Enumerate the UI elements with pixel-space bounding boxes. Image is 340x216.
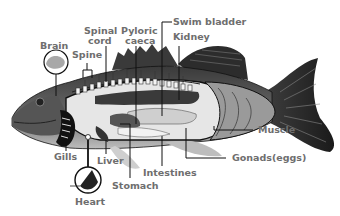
label-heart: Heart xyxy=(75,197,105,207)
label-spine: Spine xyxy=(72,50,102,60)
label-intestines: Intestines xyxy=(143,168,197,178)
label-spinal-cord-line2: cord xyxy=(88,36,112,46)
fish-illustration xyxy=(0,0,340,216)
label-liver: Liver xyxy=(97,156,124,166)
label-pyloric-line2: caeca xyxy=(125,36,156,46)
fish-anatomy-diagram: Brain Spine Spinal cord Pyloric caeca Sw… xyxy=(0,0,340,216)
eye-icon xyxy=(36,98,44,106)
label-gonads: Gonads(eggs) xyxy=(232,153,306,163)
label-muscle: Muscle xyxy=(258,125,295,135)
tail-fin xyxy=(268,58,334,152)
label-gills: Gills xyxy=(54,152,77,162)
label-kidney: Kidney xyxy=(173,32,210,42)
label-brain: Brain xyxy=(40,41,68,51)
label-stomach: Stomach xyxy=(112,181,159,191)
fish-head xyxy=(12,96,66,136)
label-swim-bladder: Swim bladder xyxy=(173,17,246,27)
